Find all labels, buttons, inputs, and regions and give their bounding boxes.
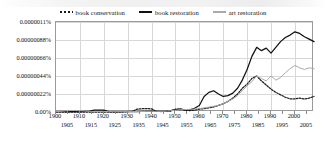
x-axis-tick-mark bbox=[163, 111, 164, 114]
x-axis-tick-label: 1925 bbox=[109, 121, 121, 129]
x-axis-tick-mark bbox=[67, 111, 68, 114]
x-axis-tick-mark bbox=[55, 111, 56, 114]
x-axis-tick-label: 1995 bbox=[276, 121, 288, 129]
legend-item-book-restoration[interactable]: book restoration bbox=[139, 9, 199, 16]
legend-label-book-conservation: book conservation bbox=[76, 9, 125, 16]
ngram-chart: book conservation book restoration art r… bbox=[0, 0, 326, 141]
series-line-book-restoration bbox=[56, 32, 314, 112]
y-axis-tick-label: 0.0000011% bbox=[20, 18, 51, 25]
x-axis-tick-label: 1935 bbox=[132, 121, 144, 129]
x-axis-tick-mark bbox=[258, 111, 259, 114]
x-axis-tick-label: 1905 bbox=[61, 121, 73, 129]
legend-label-book-restoration: book restoration bbox=[155, 9, 199, 16]
legend-item-book-conservation[interactable]: book conservation bbox=[60, 9, 125, 16]
x-axis-tick-mark bbox=[103, 111, 104, 114]
series-line-book-conservation bbox=[56, 76, 314, 112]
x-axis-tick-mark bbox=[151, 111, 152, 114]
y-axis-tick-label: 0.00000044% bbox=[16, 72, 51, 79]
x-axis-tick-mark bbox=[127, 111, 128, 114]
dotted-line-icon bbox=[60, 9, 73, 15]
x-axis-tick-label: 1965 bbox=[204, 121, 216, 129]
x-axis-tick-mark bbox=[174, 111, 175, 114]
x-axis-tick-label: 1975 bbox=[228, 121, 240, 129]
x-axis-tick-mark bbox=[282, 111, 283, 114]
x-axis-tick-label: 2005 bbox=[300, 121, 312, 129]
x-axis-tick-mark bbox=[222, 111, 223, 114]
x-axis-labels: 1900190519101915192019251930193519401945… bbox=[55, 112, 313, 136]
legend-label-art-restoration: art restoration bbox=[229, 9, 267, 16]
chart-legend: book conservation book restoration art r… bbox=[0, 6, 326, 18]
gray-line-icon bbox=[213, 9, 226, 15]
x-axis-tick-mark bbox=[79, 111, 80, 114]
y-axis-tick-label: 0.00000066% bbox=[16, 54, 51, 61]
x-axis-tick-label: 1955 bbox=[180, 121, 192, 129]
x-axis-tick-mark bbox=[91, 111, 92, 114]
x-axis-tick-label: 1945 bbox=[156, 121, 168, 129]
x-axis-tick-mark bbox=[234, 111, 235, 114]
series-container bbox=[56, 22, 314, 112]
x-axis-tick-mark bbox=[294, 111, 295, 114]
x-axis-tick-mark bbox=[270, 111, 271, 114]
series-line-art-restoration bbox=[56, 65, 314, 111]
x-axis-tick-mark bbox=[139, 111, 140, 114]
solid-line-icon bbox=[139, 9, 152, 15]
legend-item-art-restoration[interactable]: art restoration bbox=[213, 9, 267, 16]
x-axis-tick-label: 1985 bbox=[252, 121, 264, 129]
x-axis-tick-mark bbox=[210, 111, 211, 114]
y-axis-tick-label: 0.00000088% bbox=[16, 36, 51, 43]
y-axis-tick-label: 0.00000022% bbox=[16, 90, 51, 97]
x-axis-tick-label: 1915 bbox=[85, 121, 97, 129]
x-axis-tick-mark bbox=[198, 111, 199, 114]
x-axis-tick-mark bbox=[306, 111, 307, 114]
plot-area bbox=[55, 21, 313, 111]
x-axis-tick-mark bbox=[186, 111, 187, 114]
x-axis-tick-mark bbox=[115, 111, 116, 114]
x-axis-tick-mark bbox=[246, 111, 247, 114]
y-axis-labels: 0.00%0.00000022%0.00000044%0.00000066%0.… bbox=[0, 21, 53, 111]
